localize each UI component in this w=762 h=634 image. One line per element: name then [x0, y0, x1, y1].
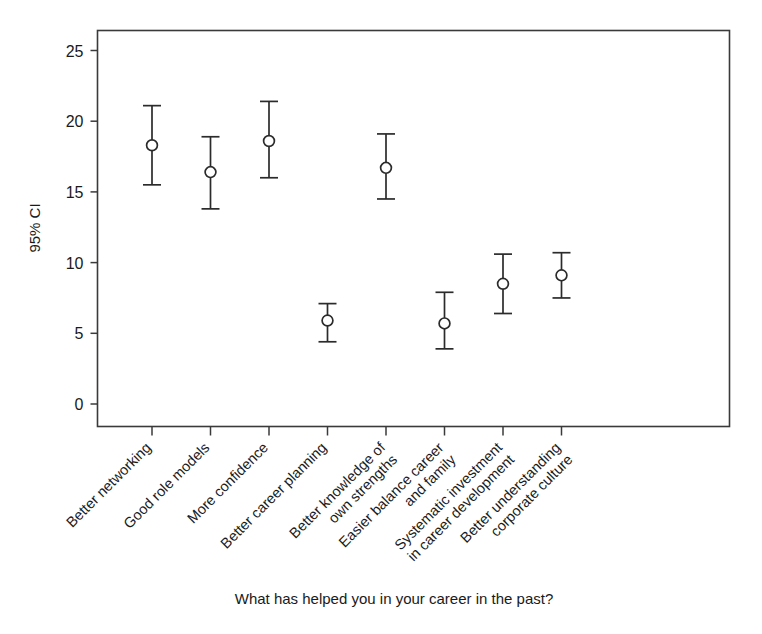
data-point-marker [556, 270, 567, 281]
y-tick-label: 0 [75, 396, 84, 413]
y-tick-label: 5 [75, 325, 84, 342]
data-point-marker [264, 136, 275, 147]
x-axis-title: What has helped you in your career in th… [235, 590, 554, 607]
y-tick-label: 20 [66, 113, 84, 130]
y-tick-label: 25 [66, 43, 84, 60]
data-point-marker [439, 318, 450, 329]
chart-background [0, 0, 762, 634]
chart-canvas: 0510152025 Better networkingGood role mo… [0, 0, 762, 634]
y-axis-title: 95% CI [26, 203, 43, 252]
error-bar-chart: 0510152025 Better networkingGood role mo… [0, 0, 762, 634]
data-point-marker [498, 278, 509, 289]
data-point-marker [205, 167, 216, 178]
y-tick-label: 15 [66, 184, 84, 201]
data-point-marker [322, 315, 333, 326]
y-tick-label: 10 [66, 255, 84, 272]
data-point-marker [147, 140, 158, 151]
data-point-marker [381, 162, 392, 173]
